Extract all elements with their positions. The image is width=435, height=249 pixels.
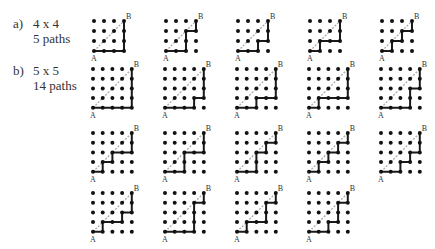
end-label-B: B [198, 12, 203, 21]
grid-dot [317, 106, 321, 110]
grid-dot [91, 170, 95, 174]
grid-dot [398, 106, 402, 110]
grid-dot [164, 29, 168, 33]
grid-dot [389, 160, 393, 164]
grid-dot [192, 220, 196, 224]
grid-dot [380, 29, 384, 33]
start-label-A: A [306, 111, 312, 120]
grid-dot [120, 210, 124, 214]
grid-dot [235, 230, 239, 234]
grid-dot [317, 201, 321, 205]
grid-dot [245, 77, 249, 81]
grid-dot [202, 141, 206, 145]
five-by-five-grid-4: AB [306, 60, 355, 120]
end-label-B: B [278, 124, 283, 133]
grid-dot [389, 67, 393, 71]
grid-dot [390, 19, 394, 23]
grid-dot [326, 160, 330, 164]
grid-dot [380, 39, 384, 43]
grid-dot [379, 150, 383, 154]
grid-dot [110, 220, 114, 224]
grid-dot [379, 96, 383, 100]
grid-dot [307, 77, 311, 81]
grid-dot [256, 49, 260, 53]
grid-dot [192, 77, 196, 81]
grid-dot [264, 170, 268, 174]
grid-dot [408, 67, 412, 71]
grid-dot [120, 150, 124, 154]
grid-dot [317, 67, 321, 71]
diagonal-line [310, 21, 340, 51]
grid-dot [410, 29, 414, 33]
grid-dot [194, 49, 198, 53]
grid-dot [346, 230, 350, 234]
grid-dot [326, 220, 330, 224]
grid-dot [101, 150, 105, 154]
grid-dot [110, 106, 114, 110]
grid-dot [336, 106, 340, 110]
grid-dot [274, 141, 278, 145]
grid-dot [307, 201, 311, 205]
grid-dot [173, 210, 177, 214]
grid-dot [101, 96, 105, 100]
grid-dot [235, 220, 239, 224]
grid-dot [254, 67, 258, 71]
grid-dot [317, 141, 321, 145]
grid-dot [408, 106, 412, 110]
end-label-B: B [278, 60, 283, 69]
grid-dot [254, 220, 258, 224]
grid-dot [346, 210, 350, 214]
grid-dot [264, 131, 268, 135]
grid-dot [182, 210, 186, 214]
grid-dot [307, 230, 311, 234]
grid-dot [245, 170, 249, 174]
grid-dot [91, 67, 95, 71]
grid-dot [246, 49, 250, 53]
grid-dot [130, 210, 134, 214]
grid-dot [274, 77, 278, 81]
grid-dot [264, 220, 268, 224]
start-label-A: A [234, 235, 240, 244]
grid-dot [110, 86, 114, 90]
grid-dot [110, 160, 114, 164]
grid-dot [102, 39, 106, 43]
grid-dot [130, 141, 134, 145]
grid-dot [254, 201, 258, 205]
diagonal-line [382, 21, 412, 51]
grid-dot [202, 170, 206, 174]
grid-dot [326, 230, 330, 234]
grid-dot [182, 220, 186, 224]
grid-dot [389, 106, 393, 110]
grid-dot [163, 160, 167, 164]
grid-dot [326, 77, 330, 81]
grid-dot [398, 77, 402, 81]
grid-dot [194, 39, 198, 43]
grid-dot [307, 160, 311, 164]
four-by-four-grid-4: AB [307, 12, 347, 63]
grid-dot [91, 86, 95, 90]
grid-dot [346, 150, 350, 154]
grid-dot [274, 230, 278, 234]
grid-dot [245, 106, 249, 110]
grid-dot [336, 160, 340, 164]
four-by-four-grid-1: AB [91, 12, 131, 63]
grid-dot [91, 230, 95, 234]
grid-dot [164, 39, 168, 43]
grid-dot [307, 170, 311, 174]
grid-dot [317, 191, 321, 195]
grid-dot [110, 191, 114, 195]
grid-dot [202, 150, 206, 154]
grid-dot [194, 29, 198, 33]
grid-dot [318, 39, 322, 43]
grid-dot [326, 96, 330, 100]
end-label-B: B [206, 184, 211, 193]
grid-dot [418, 141, 422, 145]
grid-dot [101, 77, 105, 81]
grid-dot [235, 170, 239, 174]
grid-dot [236, 29, 240, 33]
grid-dot [163, 210, 167, 214]
grid-dot [328, 39, 332, 43]
grid-dot [246, 29, 250, 33]
grid-dot [326, 210, 330, 214]
grid-dot [173, 220, 177, 224]
